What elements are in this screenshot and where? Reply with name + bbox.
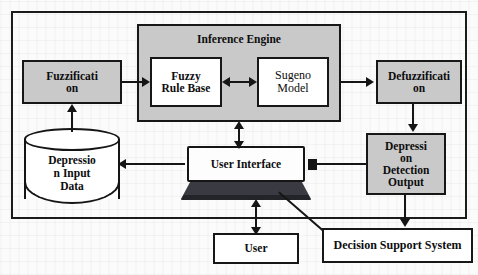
node-depression-input-data[interactable]: Depressio n Input Data	[24, 128, 120, 210]
edge-ui-to-db	[125, 163, 185, 165]
user-label: User	[245, 242, 268, 254]
node-fuzzification[interactable]: Fuzzificati on	[22, 60, 122, 104]
arrowhead-ui-to-inference	[234, 121, 244, 129]
edge-db-to-fuzzification	[71, 112, 73, 132]
node-decision-support-system[interactable]: Decision Support System	[322, 228, 473, 263]
db-label-line2: n Input	[24, 167, 120, 180]
edge-output-to-ui	[316, 163, 368, 165]
arrowhead-inference-to-ui	[234, 141, 244, 149]
depression-output-label-line4: Output	[383, 176, 430, 188]
arrowhead-rulebase-to-sugeno	[249, 77, 257, 87]
arrowhead-ui-to-user	[251, 227, 261, 235]
edge-rulebase-sugeno	[228, 81, 251, 83]
fuzzification-label-line2: on	[46, 82, 98, 94]
depression-output-label-line3: Detection	[383, 164, 430, 176]
edge-defuzzification-to-output	[412, 104, 414, 126]
node-defuzzification[interactable]: Defuzzificati on	[376, 60, 462, 104]
defuzzification-label-line2: on	[388, 82, 450, 94]
edge-fuzzification-to-inference	[122, 81, 144, 83]
edge-sugeno-to-defuzzification	[341, 81, 368, 83]
db-label-line1: Depressio	[24, 154, 120, 167]
sugeno-model-label-line2: Model	[275, 82, 311, 95]
arrowhead-fuzzification-to-inference	[142, 77, 150, 87]
inference-engine-title: Inference Engine	[139, 33, 339, 45]
user-interface-screen[interactable]: User Interface	[187, 146, 305, 182]
arrowhead-user-to-ui	[251, 199, 261, 207]
node-user-interface[interactable]: User Interface	[181, 146, 311, 200]
diagram-canvas: Fuzzificati on Inference Engine Fuzzy Ru…	[0, 0, 478, 275]
arrowhead-sugeno-to-defuzzification	[366, 77, 374, 87]
depression-output-label-line2: on	[383, 152, 430, 164]
edge-output-to-dss	[404, 195, 406, 221]
node-sugeno-model[interactable]: Sugeno Model	[257, 57, 329, 107]
depression-input-data-label: Depressio n Input Data	[24, 154, 120, 193]
arrowhead-db-to-fuzzification	[67, 104, 77, 112]
node-depression-detection-output[interactable]: Depressi on Detection Output	[366, 133, 446, 195]
arrowhead-ui-to-db	[118, 159, 126, 169]
node-user[interactable]: User	[213, 233, 299, 264]
depression-output-label-line1: Depressi	[383, 140, 430, 152]
fuzzy-rule-base-label-line1: Fuzzy	[162, 70, 211, 82]
fuzzification-label-line1: Fuzzificati	[46, 70, 98, 82]
db-label-line3: Data	[24, 180, 120, 193]
laptop-base-strip	[181, 195, 311, 200]
arrowhead-output-to-dss	[400, 219, 410, 227]
fuzzy-rule-base-label-line2: Rule Base	[162, 82, 211, 94]
defuzzification-label-line1: Defuzzificati	[388, 70, 450, 82]
node-fuzzy-rule-base[interactable]: Fuzzy Rule Base	[150, 57, 222, 107]
dss-label: Decision Support System	[333, 239, 461, 252]
arrowhead-defuzzification-to-output	[408, 124, 418, 132]
arrowhead-sugeno-to-rulebase	[222, 77, 230, 87]
